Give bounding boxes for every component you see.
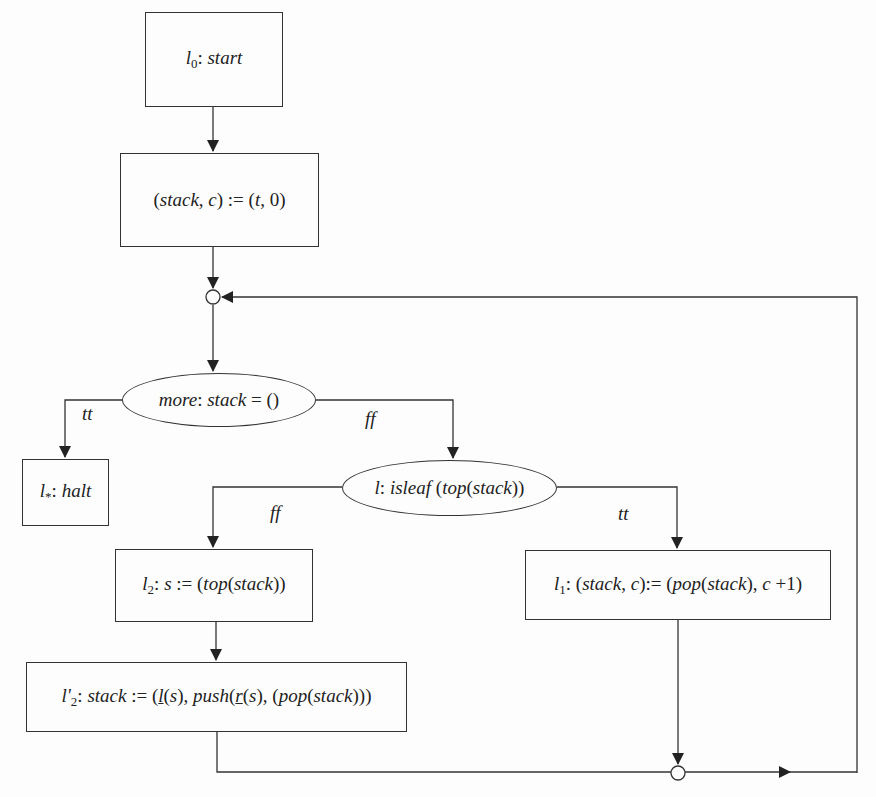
node-l2: l2: s := (top(stack)) [115, 549, 313, 622]
node-halt: l*: halt [22, 459, 109, 526]
edge-l2prime-join2 [217, 732, 671, 772]
edge-isleaf-tt [557, 487, 677, 548]
edge-more-tt [65, 400, 122, 457]
node-test-isleaf: l: isleaf (top(stack)) [342, 460, 557, 516]
join-circle-bottom [671, 766, 685, 780]
edge-label-more-ff: ff [365, 408, 376, 430]
edge-label-isleaf-tt: tt [618, 503, 629, 525]
edge-label-more-tt: tt [82, 403, 93, 425]
node-start: l0: start [145, 12, 283, 107]
join-circle-top [206, 290, 220, 304]
edge-label-isleaf-ff: ff [270, 502, 281, 524]
node-l1: l1: (stack, c):= (pop(stack), c +1) [525, 550, 831, 620]
node-init: (stack, c) := (t, 0) [120, 153, 319, 247]
node-l2-prime: l'2: stack := (l(s), push(r(s), (pop(sta… [26, 662, 407, 732]
node-test-more: more: stack = () [122, 373, 316, 427]
edge-more-ff [316, 400, 453, 458]
